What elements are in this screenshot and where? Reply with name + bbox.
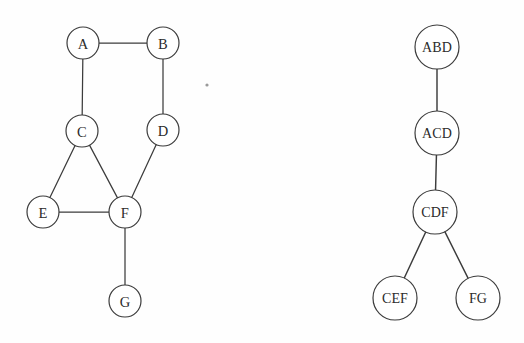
node-e[interactable]: E [27, 196, 59, 228]
node-abd[interactable]: ABD [415, 25, 459, 69]
scan-artifact-group [205, 83, 208, 86]
node-fg[interactable]: FG [456, 276, 500, 320]
figure-root: ABCDEFG ABDACDCDFCEFFG [0, 0, 524, 343]
node-label-d: D [158, 123, 169, 139]
node-label-c: C [77, 124, 87, 140]
edge-c-f [90, 145, 118, 198]
node-a[interactable]: A [67, 27, 99, 59]
edge-a-c [82, 59, 83, 115]
node-cdf[interactable]: CDF [413, 190, 457, 234]
tree-edge-group [404, 69, 468, 278]
graph-node-group: ABCDEFG [27, 27, 179, 317]
scan-speck [205, 83, 208, 86]
node-d[interactable]: D [147, 114, 179, 146]
node-f[interactable]: F [109, 196, 141, 228]
node-cef[interactable]: CEF [373, 276, 417, 320]
node-label-a: A [78, 36, 89, 52]
edge-acd-cdf [436, 155, 437, 190]
node-label-abd: ABD [422, 40, 452, 55]
node-g[interactable]: G [109, 285, 141, 317]
node-label-cdf: CDF [421, 205, 449, 220]
node-b[interactable]: B [147, 27, 179, 59]
graph-edge-group [50, 43, 163, 285]
node-label-cef: CEF [382, 291, 408, 306]
node-label-e: E [38, 205, 47, 221]
node-label-f: F [121, 205, 129, 221]
edge-d-f [132, 145, 157, 198]
edge-cdf-fg [445, 232, 468, 279]
node-label-b: B [158, 36, 168, 52]
node-label-fg: FG [469, 291, 487, 306]
node-c[interactable]: C [66, 115, 98, 147]
edge-cdf-cef [404, 232, 425, 278]
node-label-g: G [120, 294, 131, 310]
edge-c-e [50, 145, 75, 197]
diagram-canvas: ABCDEFG ABDACDCDFCEFFG [0, 0, 524, 343]
node-label-acd: ACD [422, 126, 452, 141]
node-acd[interactable]: ACD [415, 111, 459, 155]
